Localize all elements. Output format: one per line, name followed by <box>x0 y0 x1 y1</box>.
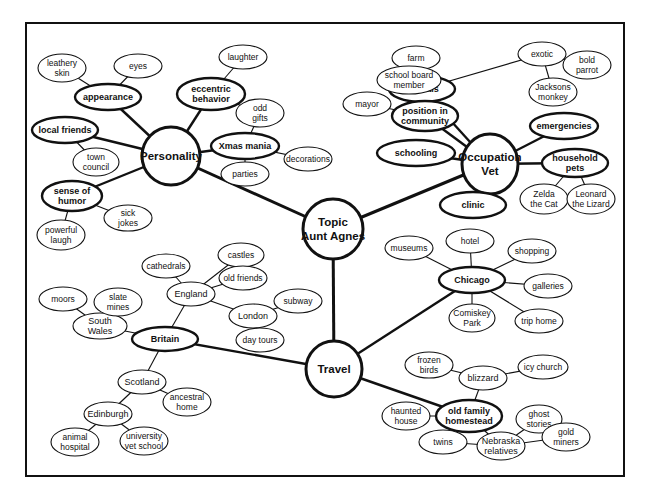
node-odd-gifts: oddgifts <box>236 99 284 127</box>
node-day-tours: day tours <box>236 328 284 352</box>
node-occupation: OccupationVet <box>458 134 521 194</box>
mind-map: TopicAunt AgnesPersonalityOccupationVetT… <box>0 0 652 496</box>
node-label: mayor <box>355 99 379 109</box>
node-label: shopping <box>515 246 550 256</box>
node-label: Xmas mania <box>219 141 273 151</box>
node-label: icy church <box>524 362 563 372</box>
node-gold-miners: goldminers <box>542 423 590 451</box>
node-label: house <box>394 416 417 426</box>
node-label: subway <box>284 296 314 306</box>
node-label: vet school <box>125 441 163 451</box>
node-household-pets: householdpets <box>542 149 608 177</box>
node-shape <box>303 199 363 259</box>
node-animal-hospital: animalhospital <box>51 428 99 456</box>
node-label: Wales <box>88 326 113 336</box>
node-label: university <box>126 431 163 441</box>
node-topic: TopicAunt Agnes <box>301 199 365 259</box>
node-label: Topic <box>318 216 348 228</box>
node-leathery-skin: leatheryskin <box>38 54 86 82</box>
node-icy-church: icy church <box>518 355 568 379</box>
node-label: laugh <box>51 235 72 245</box>
node-cathedrals: cathedrals <box>142 254 190 278</box>
node-sense-of-humor: sense ofhumor <box>42 181 102 211</box>
node-sick-jokes: sickjokes <box>104 205 152 231</box>
node-shopping: shopping <box>508 239 556 263</box>
node-zelda-the-cat: Zeldathe Cat <box>520 184 568 214</box>
node-local-friends: local friends <box>32 117 98 143</box>
node-britain: Britain <box>132 327 198 351</box>
node-label: frozen <box>417 355 441 365</box>
node-school-board-member: school boardmember <box>377 66 441 94</box>
node-nebraska-relatives: Nebraskarelatives <box>477 432 525 460</box>
node-label: monkey <box>538 92 569 102</box>
node-mayor: mayor <box>343 92 391 116</box>
node-label: leathery <box>47 58 78 68</box>
node-label: haunted <box>391 406 422 416</box>
node-laughter: laughter <box>219 45 267 69</box>
node-label: Britain <box>151 334 180 344</box>
node-label: laughter <box>228 52 259 62</box>
node-university-vet-school: universityvet school <box>120 427 168 455</box>
node-label: animal <box>62 432 87 442</box>
node-travel: Travel <box>306 341 362 397</box>
node-label: skin <box>54 68 69 78</box>
node-ancestral-home: ancestralhome <box>163 388 211 416</box>
node-label: mines <box>107 302 130 312</box>
node-chicago: Chicago <box>439 267 505 293</box>
node-subway: subway <box>274 289 322 313</box>
node-label: moors <box>51 294 75 304</box>
node-label: miners <box>553 437 579 447</box>
node-decorations: decorations <box>284 147 332 171</box>
node-label: slate <box>109 292 127 302</box>
node-label: gifts <box>252 113 268 123</box>
node-label: decorations <box>286 154 330 164</box>
node-label: ghost <box>529 409 550 419</box>
node-label: eccentric <box>191 84 231 94</box>
node-clinic: clinic <box>440 192 506 218</box>
node-label: bold <box>579 55 595 65</box>
node-label: the Cat <box>530 199 558 209</box>
node-label: farm <box>408 53 425 63</box>
node-label: Chicago <box>454 275 490 285</box>
node-position-in-community: position incommunity <box>392 101 458 131</box>
node-label: Edinburgh <box>87 409 128 419</box>
node-label: London <box>238 311 268 321</box>
node-label: emergencies <box>536 121 591 131</box>
node-label: Aunt Agnes <box>301 230 365 242</box>
node-label: castles <box>228 250 254 260</box>
node-south-wales: SouthWales <box>73 313 127 339</box>
node-schooling: schooling <box>377 140 455 166</box>
node-label: member <box>393 80 424 90</box>
node-label: day tours <box>243 335 278 345</box>
node-label: position in <box>402 106 448 116</box>
node-scotland: Scotland <box>118 370 166 394</box>
node-label: local friends <box>38 125 91 135</box>
node-label: blizzard <box>467 373 498 383</box>
nodes-layer: TopicAunt AgnesPersonalityOccupationVetT… <box>32 42 615 460</box>
node-label: old family <box>448 406 490 416</box>
node-label: ancestral <box>170 392 205 402</box>
node-label: Occupation <box>458 151 521 163</box>
node-jacksons-monkey: Jacksonsmonkey <box>529 78 577 106</box>
node-haunted-house: hauntedhouse <box>382 402 430 430</box>
node-blizzard: blizzard <box>459 366 507 390</box>
node-eccentric-behavior: eccentricbehavior <box>177 78 245 110</box>
node-twins: twins <box>419 430 467 454</box>
node-label: hospital <box>60 442 89 452</box>
node-parties: parties <box>221 162 269 186</box>
node-hotel: hotel <box>446 229 494 253</box>
node-edinburgh: Edinburgh <box>84 402 132 426</box>
node-trip-home: trip home <box>515 309 563 333</box>
node-label: parties <box>232 169 258 179</box>
node-label: sense of <box>54 186 92 196</box>
node-label: Scotland <box>124 377 159 387</box>
node-frozen-birds: frozenbirds <box>405 352 453 378</box>
node-label: pets <box>566 163 585 173</box>
node-label: relatives <box>484 446 518 456</box>
node-label: Jacksons <box>535 82 570 92</box>
node-london: London <box>229 304 277 328</box>
node-label: sick <box>121 208 136 218</box>
node-exotic: exotic <box>518 42 566 66</box>
node-label: Leonard <box>575 189 606 199</box>
node-label: appearance <box>83 92 133 102</box>
